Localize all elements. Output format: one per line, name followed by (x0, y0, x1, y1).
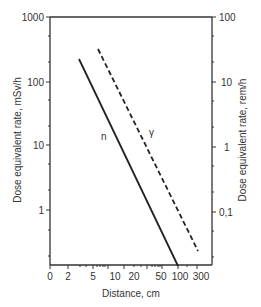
x-tick-label: 100 (172, 271, 189, 282)
x-tick-label: 0 (47, 271, 53, 282)
x-tick-label: 300 (193, 271, 210, 282)
y-tick-label: 100 (27, 77, 44, 88)
y-tick-label: 10 (33, 140, 45, 151)
y-right-axis-title: Dose equivalent rate, rem/h (237, 79, 248, 202)
right-y-tick-labels: 100 10 1 0,1 (219, 12, 236, 218)
series-gamma-line (98, 49, 198, 251)
y-right-tick-label: 100 (219, 12, 236, 23)
chart: 1000 100 10 1 100 10 1 0,1 (0, 0, 261, 307)
x-tick-label: 2 (65, 271, 71, 282)
y-tick-label: 1 (38, 205, 44, 216)
series-n-line (79, 59, 178, 266)
y-right-tick-label: 10 (221, 77, 233, 88)
x-tick-label: 5 (90, 271, 96, 282)
y-right-tick-label: 1 (224, 142, 230, 153)
series-gamma-label: γ (149, 127, 154, 138)
x-tick-label: 20 (128, 271, 140, 282)
x-tick-labels: 0 2 5 10 20 50 100 300 (47, 271, 210, 282)
series-n-label: n (101, 131, 107, 142)
x-axis-title: Distance, cm (102, 288, 160, 299)
x-tick-label: 10 (109, 271, 121, 282)
y-tick-label: 1000 (22, 12, 45, 23)
y-axis-title: Dose equivalent rate, mSv/h (12, 77, 23, 203)
left-y-tick-labels: 1000 100 10 1 (22, 12, 45, 216)
x-tick-label: 50 (155, 271, 167, 282)
y-right-tick-label: 0,1 (219, 207, 233, 218)
